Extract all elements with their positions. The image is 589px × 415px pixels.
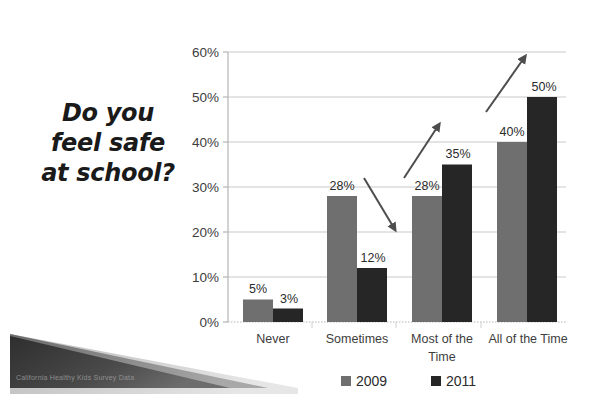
x-tick-label-most-of-the-time-line-1: Most of the <box>411 332 473 346</box>
bar-group-never: 5% 3% <box>243 282 303 322</box>
y-tick-label-50: 50% <box>192 90 219 105</box>
annotation-arrow-sometimes-down <box>364 178 394 228</box>
bar-2009-never <box>243 300 273 323</box>
y-tick-label-40: 40% <box>192 135 219 150</box>
bar-group-all-of-the-time: 40% 50% <box>497 80 557 322</box>
x-tick-label-sometimes: Sometimes <box>326 332 389 346</box>
bar-value-2011-most-of-the-time: 35% <box>445 147 470 161</box>
bar-value-2009-most-of-the-time: 28% <box>414 179 439 193</box>
bar-group-most-of-the-time: 28% 35% <box>412 147 472 322</box>
bar-2009-most-of-the-time <box>412 196 442 322</box>
x-tick-label-all-of-the-time: All of the Time <box>488 332 567 346</box>
x-axis-tick-labels: Never Sometimes Most of the Time All of … <box>256 332 567 364</box>
legend-item-2011[interactable]: 2011 <box>431 373 476 389</box>
bar-2011-sometimes <box>357 268 387 322</box>
page-title-line-3: at school? <box>28 158 188 188</box>
chart-legend: 2009 2011 <box>341 373 476 389</box>
annotation-arrow-most-of-the-time-up <box>404 126 438 178</box>
page-title: Do you feel safe at school? <box>28 98 188 188</box>
bar-value-2011-sometimes: 12% <box>360 251 385 265</box>
legend-item-2009[interactable]: 2009 <box>341 373 387 389</box>
bar-value-2009-sometimes: 28% <box>329 179 354 193</box>
bar-2009-sometimes <box>327 196 357 322</box>
y-tick-label-30: 30% <box>192 180 219 195</box>
annotation-arrow-all-of-the-time-up <box>486 58 524 112</box>
y-tick-label-0: 0% <box>199 315 219 330</box>
banner-caption: California Healthy Kids Survey Data <box>16 374 134 381</box>
legend-swatch-2011 <box>431 376 441 386</box>
bar-2011-all-of-the-time <box>527 97 557 322</box>
bar-value-2009-never: 5% <box>249 282 267 296</box>
bar-value-2011-all-of-the-time: 50% <box>531 80 556 94</box>
bar-value-2009-all-of-the-time: 40% <box>499 125 524 139</box>
slide-canvas: Do you feel safe at school? <box>0 0 589 415</box>
y-tick-label-60: 60% <box>192 45 219 60</box>
bar-chart: 60% 50% 40% 30% 20% 10% 0% 5% 3% <box>186 38 582 398</box>
bar-2009-all-of-the-time <box>497 142 527 322</box>
legend-label-2009: 2009 <box>356 373 387 389</box>
x-axis-category-separators <box>312 322 481 328</box>
legend-label-2011: 2011 <box>446 373 476 389</box>
y-axis-tick-labels: 60% 50% 40% 30% 20% 10% 0% <box>192 45 219 330</box>
x-tick-label-most-of-the-time-line-2: Time <box>428 350 455 364</box>
legend-swatch-2009 <box>341 376 351 386</box>
y-tick-label-10: 10% <box>192 270 219 285</box>
y-axis-ticks <box>223 52 228 322</box>
bar-2011-never <box>273 309 303 323</box>
y-tick-label-20: 20% <box>192 225 219 240</box>
bar-value-2011-never: 3% <box>280 292 298 306</box>
bar-2011-most-of-the-time <box>442 165 472 323</box>
page-title-line-1: Do you <box>28 98 188 128</box>
x-tick-label-never: Never <box>256 332 289 346</box>
page-title-line-2: feel safe <box>28 128 188 158</box>
